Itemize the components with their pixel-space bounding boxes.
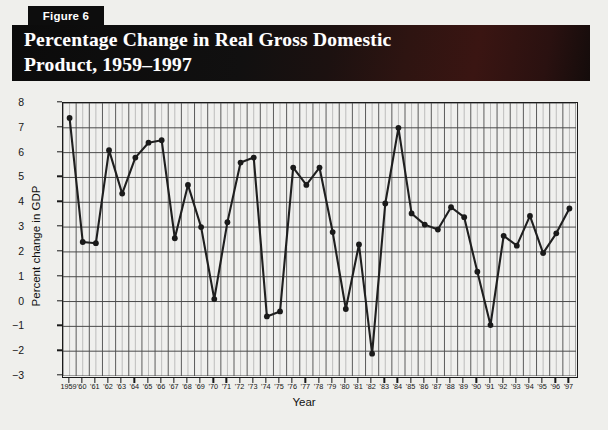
x-axis-tick [278, 378, 279, 383]
x-axis-tick-label: '80 [340, 382, 350, 391]
y-axis-tick [57, 300, 62, 301]
x-axis-tick [331, 378, 332, 383]
x-axis-tick-label: '70 [209, 382, 219, 391]
x-axis-tick-label: '83 [380, 382, 390, 391]
x-axis-tick [410, 378, 411, 383]
y-axis-tick [57, 325, 62, 326]
y-axis-tick-label: 1 [0, 270, 24, 282]
chart-container: 876543210−1−2−3 1959'60'61'62'63'64'65'6… [0, 86, 608, 430]
x-axis-tick [449, 378, 450, 383]
gdp-line-series [63, 103, 576, 376]
figure-title: Percentage Change in Real Gross Domestic… [24, 27, 391, 77]
x-axis-tick [397, 378, 398, 383]
y-axis-tick [57, 349, 62, 350]
x-axis-tick-label: '63 [116, 382, 126, 391]
x-axis-tick-label: '72 [235, 382, 245, 391]
x-axis-tick-label: '95 [537, 382, 547, 391]
x-axis-tick [68, 378, 69, 383]
y-axis-tick-label: −2 [0, 344, 24, 356]
y-axis-tick [57, 225, 62, 226]
y-axis-tick-label: −3 [0, 369, 24, 381]
x-axis-tick [186, 378, 187, 383]
x-axis-tick [173, 378, 174, 383]
plot-area [62, 102, 578, 378]
y-axis-tick-label: 0 [0, 295, 24, 307]
x-axis-tick-label: '84 [393, 382, 403, 391]
x-axis-tick [423, 378, 424, 383]
x-axis-tick-label: '61 [90, 382, 100, 391]
x-axis-tick [265, 378, 266, 383]
y-axis-tick-label: 7 [0, 121, 24, 133]
x-axis-tick [541, 378, 542, 383]
x-axis-tick [489, 378, 490, 383]
x-axis-tick [502, 378, 503, 383]
x-axis-tick-label: '64 [130, 382, 140, 391]
x-axis-tick [515, 378, 516, 383]
x-axis-tick-label: '89 [458, 382, 468, 391]
x-axis-tick [226, 378, 227, 383]
y-axis-title: Percent change in GDP [30, 126, 42, 366]
y-axis-tick [57, 250, 62, 251]
x-axis-tick-label: '93 [511, 382, 521, 391]
x-axis-tick-label: '67 [169, 382, 179, 391]
x-axis-tick [252, 378, 253, 383]
x-axis-tick-label: '71 [222, 382, 232, 391]
x-axis-tick [476, 378, 477, 383]
x-axis-tick-label: '96 [551, 382, 561, 391]
x-axis-tick [292, 378, 293, 383]
x-axis-tick-label: '94 [524, 382, 534, 391]
y-axis-tick-label: 6 [0, 146, 24, 158]
title-banner: Percentage Change in Real Gross Domestic… [12, 25, 590, 81]
y-axis-tick-label: 4 [0, 195, 24, 207]
x-axis-tick-label: '97 [564, 382, 574, 391]
x-axis-tick [568, 378, 569, 383]
y-axis-tick [57, 151, 62, 152]
x-axis-tick [344, 378, 345, 383]
x-axis-tick-label: '79 [327, 382, 337, 391]
x-axis-tick [528, 378, 529, 383]
x-axis-tick [147, 378, 148, 383]
x-axis-tick-label: '73 [248, 382, 258, 391]
x-axis-tick [107, 378, 108, 383]
x-axis-tick [81, 378, 82, 383]
x-axis-tick-label: '81 [353, 382, 363, 391]
x-axis-tick-label: '91 [485, 382, 495, 391]
x-axis-tick-label: '90 [472, 382, 482, 391]
x-axis-tick-label: '78 [314, 382, 324, 391]
y-axis-tick-label: 3 [0, 220, 24, 232]
y-axis-tick [57, 374, 62, 375]
x-axis-tick-label: '82 [366, 382, 376, 391]
x-axis-tick [305, 378, 306, 383]
x-axis-tick-label: '69 [195, 382, 205, 391]
y-axis-tick [57, 275, 62, 276]
x-axis-tick-label: '62 [103, 382, 113, 391]
x-axis-tick [134, 378, 135, 383]
x-axis-tick-label: '86 [419, 382, 429, 391]
x-axis-tick [555, 378, 556, 383]
y-axis-tick [57, 126, 62, 127]
x-axis-tick-label: '66 [156, 382, 166, 391]
figure-number-tab: Figure 6 [28, 6, 104, 25]
x-axis-tick [436, 378, 437, 383]
x-axis-tick-label: '65 [143, 382, 153, 391]
x-axis-tick [213, 378, 214, 383]
x-axis-tick [94, 378, 95, 383]
y-axis-tick-label: −1 [0, 319, 24, 331]
y-axis-tick [57, 201, 62, 202]
figure-number-label: Figure 6 [43, 10, 89, 22]
y-axis-tick-label: 8 [0, 96, 24, 108]
x-axis-tick-label: 1959 [60, 382, 76, 391]
x-axis-tick-label: '76 [287, 382, 297, 391]
x-axis-tick [199, 378, 200, 383]
x-axis-tick [370, 378, 371, 383]
x-axis-tick [121, 378, 122, 383]
x-axis-tick [239, 378, 240, 383]
x-axis-tick-label: '88 [445, 382, 455, 391]
x-axis-tick-label: '87 [432, 382, 442, 391]
x-axis-tick [357, 378, 358, 383]
y-axis-tick-label: 5 [0, 170, 24, 182]
x-axis-tick-label: '60 [77, 382, 87, 391]
x-axis-tick [318, 378, 319, 383]
x-axis-tick-label: '74 [261, 382, 271, 391]
x-axis-tick [463, 378, 464, 383]
